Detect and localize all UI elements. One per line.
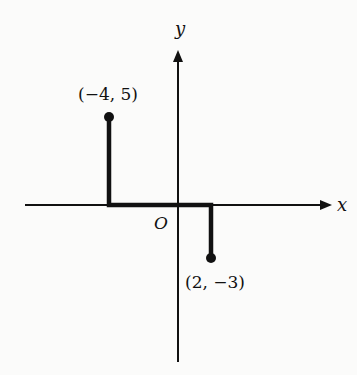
diagram-svg: y x O (−4, 5) (2, −3) [0, 0, 357, 375]
x-axis-arrow-icon [320, 200, 332, 210]
origin-label: O [154, 213, 168, 233]
y-axis-arrow-icon [173, 50, 183, 62]
bold-path [109, 117, 211, 258]
point-b [206, 253, 216, 263]
coordinate-diagram: y x O (−4, 5) (2, −3) [0, 0, 357, 375]
point-b-label: (2, −3) [185, 272, 245, 292]
y-axis-label: y [174, 18, 186, 39]
x-axis-label: x [337, 194, 347, 215]
point-a-label: (−4, 5) [78, 84, 138, 104]
point-a [104, 112, 114, 122]
